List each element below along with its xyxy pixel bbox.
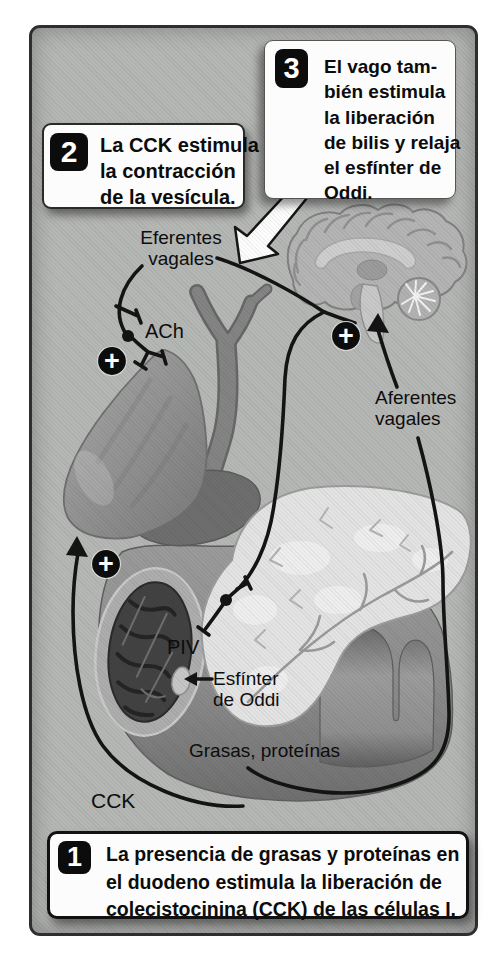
afferent-vagal-upper xyxy=(378,330,397,387)
label-line: vagales xyxy=(140,248,221,269)
figure-cck-regulation: + + + Eferentes vagales ACh Aferentes va… xyxy=(0,0,503,955)
plus-icon: + xyxy=(104,346,120,376)
plus-badge-gallbladder-ach: + xyxy=(98,346,127,376)
callout-text: El vago tam- bién estimula la liberación… xyxy=(324,54,460,206)
step-number-badge: 1 xyxy=(58,841,91,874)
label-line: Aferentes xyxy=(375,387,456,408)
callout-text-line: colecistocinina (CCK) de las células I. xyxy=(106,896,459,924)
callout-text-line: bién estimula xyxy=(324,79,460,104)
label-line: vagales xyxy=(375,408,456,429)
label-esfinter-de-oddi: Esfínter de Oddi xyxy=(213,668,280,710)
ach-synapse-dot xyxy=(122,330,134,342)
label-cck: CCK xyxy=(91,790,135,811)
label-aferentes-vagales: Aferentes vagales xyxy=(375,387,456,429)
callout-text-line: de bilis y relaja xyxy=(324,130,460,155)
plus-badge-cck-gallbladder: + xyxy=(92,549,121,579)
callout-text-line: El vago tam- xyxy=(324,54,460,79)
callout-text-line: La presencia de grasas y proteínas en xyxy=(106,841,459,869)
thalamus xyxy=(357,260,387,280)
callout-text: La CCK estimula la contracción de la ves… xyxy=(100,132,259,210)
label-piv: PIV xyxy=(167,637,199,658)
label-line: de Oddi xyxy=(213,689,280,710)
callout-step-1: 1 La presencia de grasas y proteínas en … xyxy=(47,831,469,919)
label-eferentes-vagales: Eferentes vagales xyxy=(140,227,221,269)
efferent-arc-to-ach xyxy=(119,266,142,334)
gallbladder xyxy=(64,350,207,539)
callout-text-line: la contracción xyxy=(100,158,259,184)
label-grasas-proteinas: Grasas, proteínas xyxy=(189,740,340,761)
callout-text-line: la liberación xyxy=(324,105,460,130)
label-line: Eferentes xyxy=(140,227,221,248)
callout-text-line: el esfínter de xyxy=(324,155,460,180)
callout-text-line: de la vesícula. xyxy=(100,184,259,210)
plus-icon: + xyxy=(338,321,354,351)
callout-step-3: 3 El vago tam- bién estimula la liberaci… xyxy=(264,40,456,199)
cck-arrowhead xyxy=(66,536,88,557)
callout-text-line: el duodeno estimula la liberación de xyxy=(106,869,459,897)
callout-text-line: La CCK estimula xyxy=(100,132,259,158)
plus-badge-brainstem: + xyxy=(332,321,361,351)
plus-icon: + xyxy=(98,549,114,579)
step-number-badge: 3 xyxy=(275,49,308,88)
label-line: Esfínter xyxy=(213,668,280,689)
callout-step-2: 2 La CCK estimula la contracción de la v… xyxy=(42,123,245,209)
callout-text: La presencia de grasas y proteínas en el… xyxy=(106,841,459,924)
piv-synapse-dot xyxy=(220,594,232,606)
label-ach: ACh xyxy=(145,321,184,342)
step-number-badge: 2 xyxy=(50,133,88,171)
callout-text-line: Oddi. xyxy=(324,180,460,205)
